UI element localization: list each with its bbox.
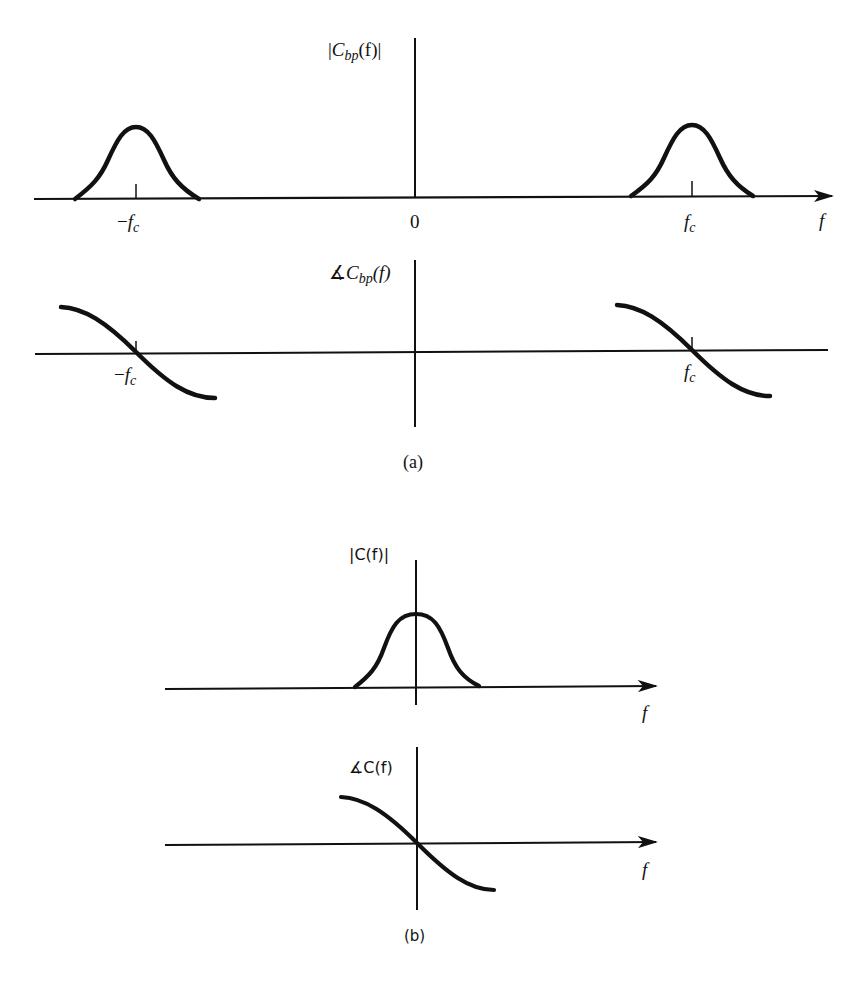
panel-a-caption: (a)	[403, 453, 423, 471]
a-phase-ylabel: ∡Cbp(f)	[329, 263, 391, 282]
tick-sub: c	[689, 370, 695, 385]
minus-sign: −	[117, 211, 128, 232]
panel-b-magnitude-plot	[165, 560, 656, 705]
tick-sub: c	[133, 220, 139, 235]
tick-sub: c	[130, 373, 136, 388]
a-mag-lobe-neg-fc	[75, 127, 199, 199]
a-mag-ylabel-sub: bp	[345, 48, 359, 63]
figure-canvas	[0, 0, 864, 982]
a-mag-ylabel: |Cbp(f)|	[328, 40, 381, 59]
a-phase-ylabel-suffix: (f)	[373, 262, 391, 283]
a-mag-xlabel: f	[819, 211, 824, 230]
b-phase-x-axis	[165, 842, 656, 845]
a-phase-x-axis	[35, 350, 828, 354]
panel-b-caption: (b)	[404, 929, 425, 944]
b-mag-ylabel: |C(f)|	[349, 547, 389, 563]
a-mag-ylabel-suffix: (f)|	[359, 39, 382, 60]
minus-sign: −	[114, 364, 125, 385]
panel-a-magnitude-plot	[34, 38, 832, 199]
panel-a-phase-plot	[35, 260, 828, 427]
a-phase-ylabel-main: C	[346, 262, 359, 283]
a-phase-tick-label-pos-fc: fc	[684, 362, 696, 381]
tick-sub: c	[689, 220, 695, 235]
a-phase-tick-label-neg-fc: −fc	[114, 365, 136, 384]
angle-icon: ∡	[329, 262, 346, 283]
tick-main: 0	[410, 211, 420, 232]
a-phase-ylabel-sub: bp	[359, 271, 373, 286]
a-mag-tick-label-pos-fc: fc	[684, 212, 696, 231]
b-mag-xlabel: f	[642, 703, 647, 722]
a-mag-tick-label-zero: 0	[410, 212, 420, 231]
a-mag-x-axis	[34, 196, 832, 199]
a-mag-ylabel-main: C	[332, 39, 345, 60]
panel-b-phase-plot	[165, 747, 656, 910]
b-mag-x-axis	[165, 686, 656, 689]
b-phase-xlabel: f	[642, 860, 647, 879]
b-phase-ylabel: ∡C(f)	[349, 760, 393, 776]
a-mag-tick-label-neg-fc: −fc	[117, 212, 139, 231]
